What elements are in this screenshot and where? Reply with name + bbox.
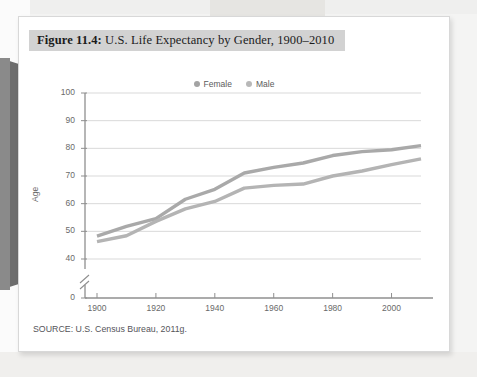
figure-source: SOURCE: U.S. Census Bureau, 2011g.: [33, 324, 187, 334]
background-bottom-shade: [0, 352, 477, 377]
x-tick-label-1920: 1920: [136, 303, 176, 313]
x-tick-label-1900: 1900: [77, 303, 117, 313]
x-tick-label-1980: 1980: [313, 303, 353, 313]
x-tick-label-2000: 2000: [372, 303, 412, 313]
background-tape-top: [210, 0, 325, 16]
screenshot-root: Figure 11.4: U.S. Life Expectancy by Gen…: [0, 0, 477, 377]
background-dark-wedge-inner: [0, 58, 10, 290]
figure-card: Figure 11.4: U.S. Life Expectancy by Gen…: [18, 16, 450, 352]
x-tick-label-1940: 1940: [195, 303, 235, 313]
x-tick-label-1960: 1960: [254, 303, 294, 313]
x-axis-ticks: 190019201940196019802000: [19, 17, 449, 351]
plot-area: Age 0405060708090100 1900192019401960198…: [19, 17, 449, 351]
